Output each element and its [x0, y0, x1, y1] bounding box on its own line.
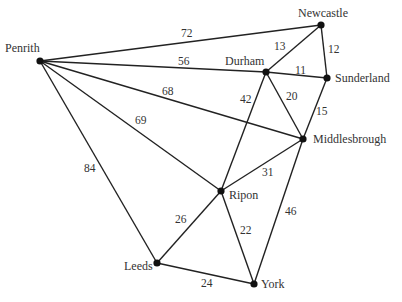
node-ripon	[217, 187, 224, 194]
edge-weight-durham-sunderland: 11	[295, 64, 306, 76]
edge-weight-penrith-ripon: 69	[135, 114, 147, 126]
node-label-leeds: Leeds	[124, 259, 153, 273]
edge-penrith-ripon	[40, 61, 221, 191]
node-label-penrith: Penrith	[5, 41, 40, 55]
edge-weight-newcastle-sunderland: 12	[328, 43, 340, 55]
node-label-middlesbrough: Middlesbrough	[313, 132, 386, 146]
node-sunderland	[323, 74, 330, 81]
node-label-york: York	[261, 277, 284, 291]
edge-newcastle-sunderland	[321, 25, 327, 78]
edge-middlesbrough-ripon	[221, 139, 303, 191]
edge-weight-penrith-middlesbrough: 68	[162, 85, 174, 97]
edge-penrith-leeds	[40, 61, 157, 263]
edge-weight-penrith-durham: 56	[178, 55, 190, 67]
node-penrith	[36, 57, 43, 64]
edge-weight-durham-middlesbrough: 20	[286, 90, 298, 102]
node-middlesbrough	[299, 135, 306, 142]
edge-weight-leeds-york: 24	[201, 277, 213, 289]
edge-weight-ripon-york: 22	[240, 224, 252, 236]
edge-weight-durham-ripon: 42	[240, 93, 252, 105]
node-durham	[262, 68, 269, 75]
edge-weight-ripon-leeds: 26	[175, 213, 187, 225]
edge-weight-penrith-leeds: 84	[84, 162, 96, 174]
edge-ripon-york	[221, 191, 254, 284]
node-york	[250, 280, 257, 287]
edge-weight-middlesbrough-ripon: 31	[262, 166, 274, 178]
node-label-durham: Durham	[225, 54, 265, 68]
edge-weight-penrith-newcastle: 72	[181, 27, 193, 39]
node-label-newcastle: Newcastle	[298, 6, 348, 20]
edge-weight-sunderland-middlesbrough: 15	[316, 105, 328, 117]
weighted-graph: 72566869841312112042153146262224 Penrith…	[0, 0, 402, 302]
node-label-ripon: Ripon	[229, 188, 258, 202]
node-newcastle	[317, 21, 324, 28]
edge-ripon-leeds	[157, 191, 221, 263]
node-label-sunderland: Sunderland	[335, 71, 390, 85]
edge-weight-middlesbrough-york: 46	[285, 205, 297, 217]
edge-durham-ripon	[221, 72, 266, 191]
edge-weights-layer: 72566869841312112042153146262224	[84, 27, 340, 289]
node-leeds	[153, 259, 160, 266]
edge-weight-newcastle-durham: 13	[274, 40, 286, 52]
